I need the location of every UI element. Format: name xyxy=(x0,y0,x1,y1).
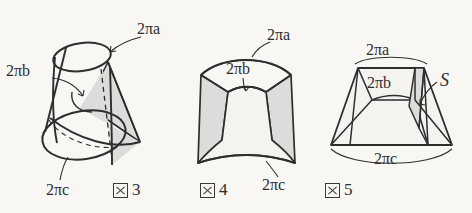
figure-3-drawing xyxy=(39,37,141,180)
fig5-label-s: S xyxy=(440,70,449,91)
fig3-caption-number: 3 xyxy=(132,180,141,200)
fig4-caption-number: 4 xyxy=(219,180,228,200)
fig5-body-outline xyxy=(331,68,452,145)
fig3-label-2pib: 2πb xyxy=(6,62,30,80)
fig4-leader-a xyxy=(252,42,270,57)
fig4-label-2pib: 2πb xyxy=(226,60,250,78)
fig5-label-2pia: 2πa xyxy=(366,41,389,59)
fig3-leader-a xyxy=(110,37,141,52)
fig3-caption: 3 xyxy=(113,180,141,200)
figure-5-drawing xyxy=(331,57,452,163)
fig4-leader-c xyxy=(266,161,278,177)
zu-kanji-icon xyxy=(200,183,215,198)
fig3-label-2pic: 2πc xyxy=(46,181,69,199)
figure-drawing-canvas xyxy=(0,0,472,213)
fig4-label-2pic: 2πc xyxy=(262,176,285,194)
fig4-caption: 4 xyxy=(200,180,228,200)
fig5-caption-number: 5 xyxy=(344,180,353,200)
figure-plate: 2πa 2πb 2πc 3 2πa 2πb 2πc 4 2πa 2πb 2πc … xyxy=(0,0,472,213)
zu-kanji-icon xyxy=(325,183,340,198)
fig3-leader-c xyxy=(60,157,68,180)
fig5-label-2pic: 2πc xyxy=(374,150,397,168)
fig4-label-2pia: 2πa xyxy=(267,26,290,44)
fig5-label-2pib: 2πb xyxy=(367,74,391,92)
zu-kanji-icon xyxy=(113,183,128,198)
fig3-label-2pia: 2πa xyxy=(137,20,160,38)
fig5-caption: 5 xyxy=(325,180,353,200)
